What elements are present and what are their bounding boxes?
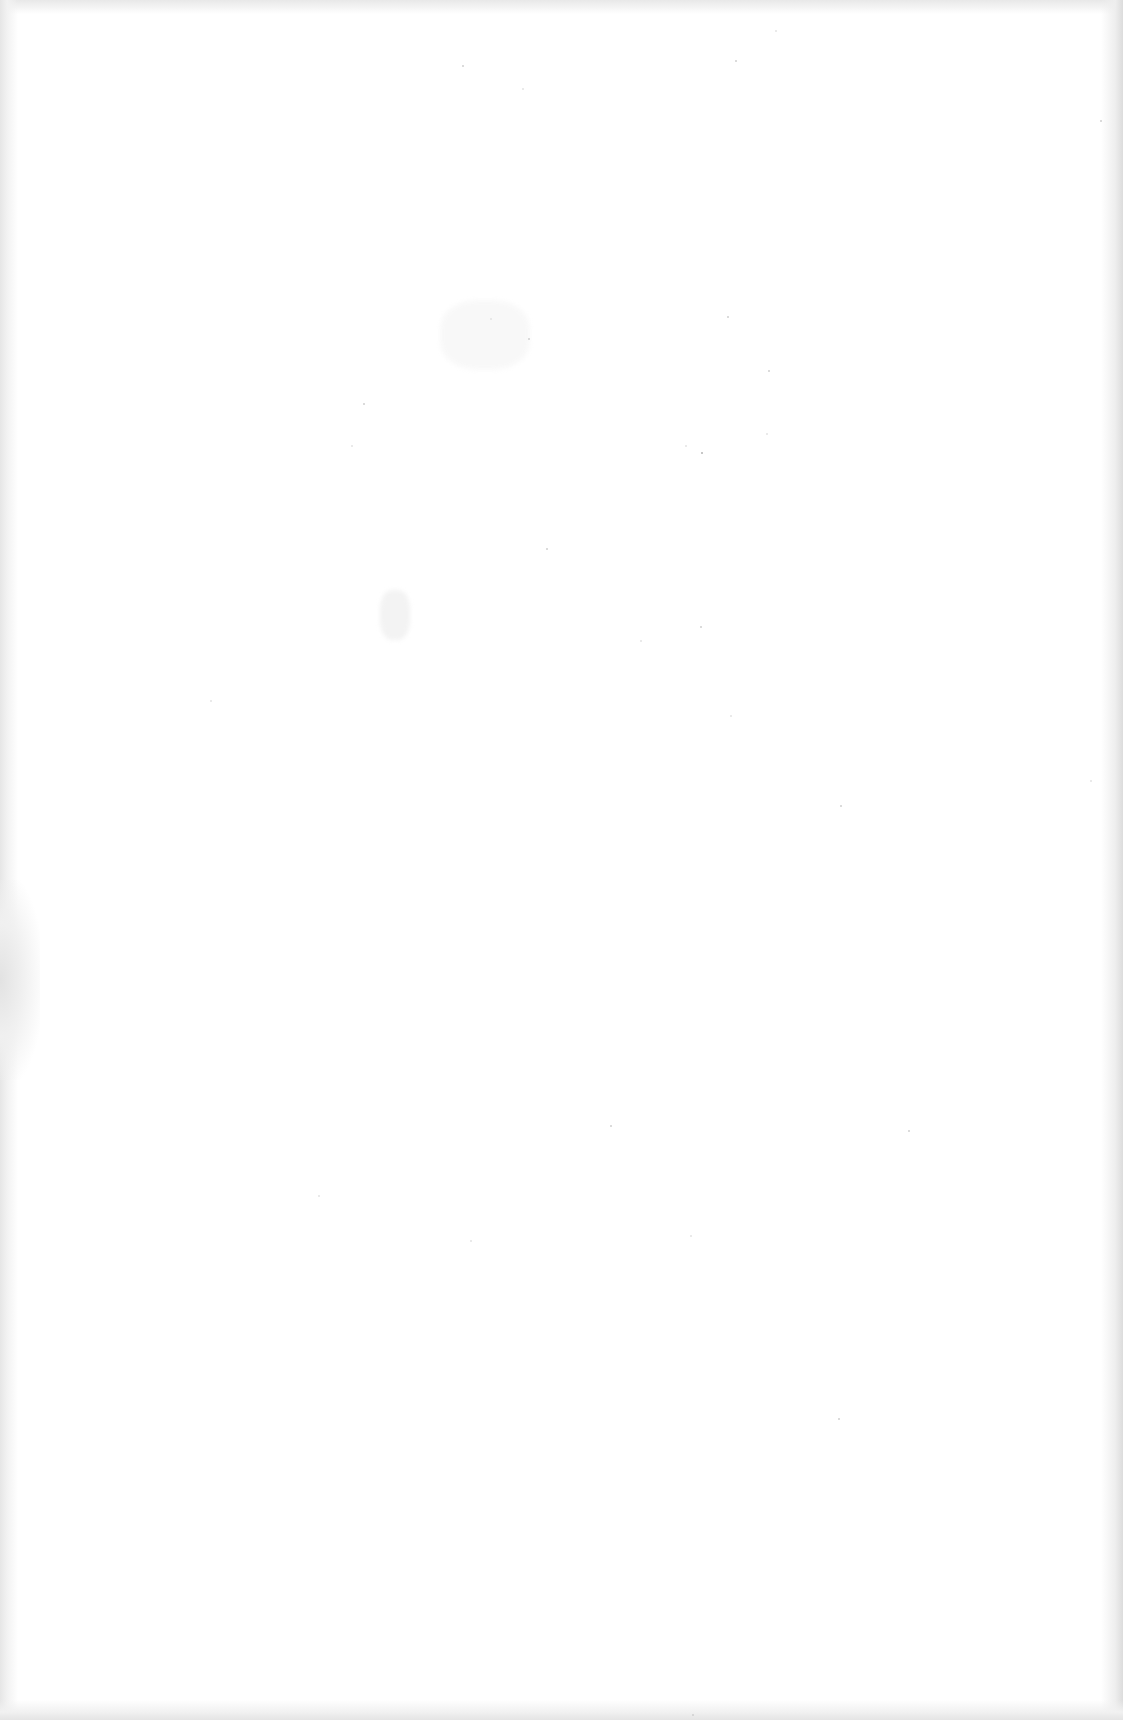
show-through-smudge: [440, 300, 530, 370]
scan-edge-left: [0, 0, 18, 1720]
show-through-smudge: [380, 590, 410, 640]
scan-edge-top: [0, 0, 1123, 14]
scan-edge-shadow: [0, 880, 40, 1080]
scan-edge-right: [1101, 0, 1123, 1720]
scan-edge-bottom: [0, 1700, 1123, 1720]
blank-scanned-page: [0, 0, 1123, 1720]
